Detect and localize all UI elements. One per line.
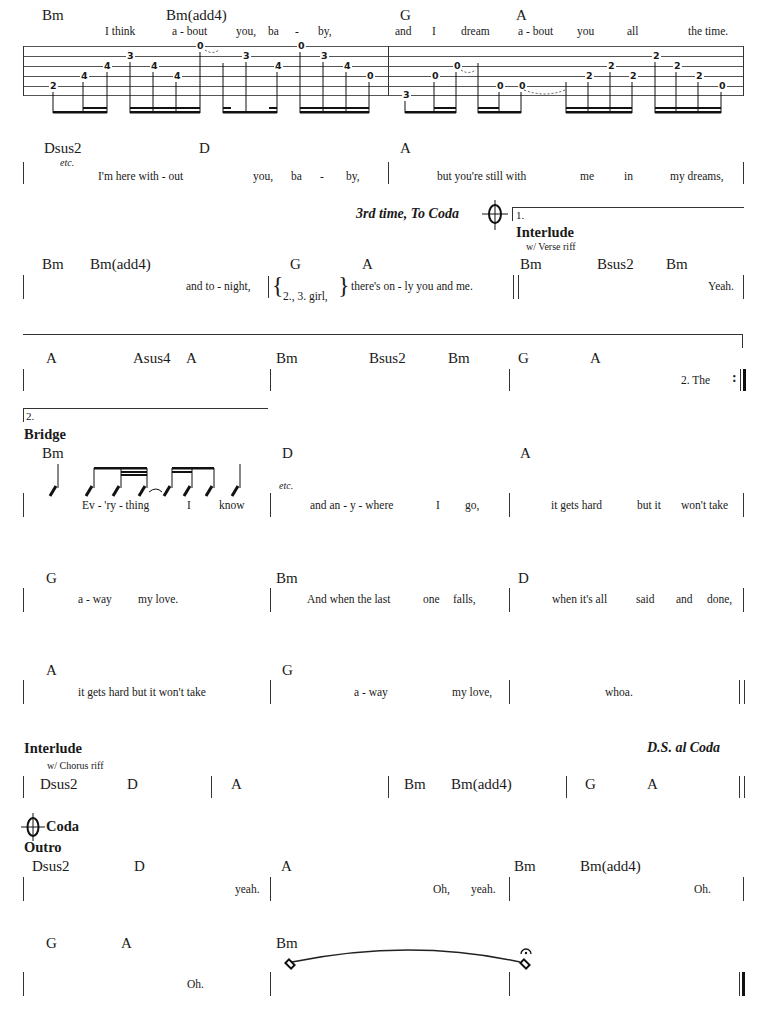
lyric: I bbox=[436, 499, 440, 511]
chord: Bsus2 bbox=[597, 256, 634, 273]
barline bbox=[268, 276, 269, 298]
barline bbox=[23, 369, 24, 391]
chord: A bbox=[121, 935, 132, 952]
barline bbox=[270, 972, 271, 996]
fermata-icon bbox=[519, 945, 533, 957]
lyric: one bbox=[423, 593, 440, 605]
barline bbox=[743, 493, 744, 517]
lyric: Oh. bbox=[694, 883, 711, 895]
double-barline bbox=[513, 275, 519, 299]
chord: D bbox=[127, 776, 138, 793]
chord: G bbox=[518, 350, 529, 367]
lyric: said bbox=[636, 593, 655, 605]
lyric: I bbox=[187, 499, 191, 511]
barline bbox=[23, 162, 24, 184]
chord: Dsus2 bbox=[40, 776, 78, 793]
chord: A bbox=[400, 140, 411, 157]
ending-1-label: 1. bbox=[516, 209, 524, 221]
barline bbox=[566, 776, 567, 798]
chord: A bbox=[46, 662, 57, 679]
chord: G bbox=[585, 776, 596, 793]
left-brace-icon: { bbox=[272, 270, 284, 300]
lyric: my love, bbox=[452, 686, 492, 698]
double-barline bbox=[739, 776, 745, 798]
lyric: won't take bbox=[681, 499, 728, 511]
lyric: but you're still with bbox=[437, 170, 526, 182]
lyric: a - way bbox=[354, 686, 388, 698]
section-label-outro: Outro bbox=[24, 839, 62, 856]
lyric: and bbox=[676, 593, 693, 605]
barline bbox=[509, 369, 510, 391]
chord: Asus4 bbox=[133, 350, 171, 367]
tab-rhythm-notation bbox=[0, 0, 758, 120]
chord: A bbox=[520, 445, 531, 462]
barline bbox=[743, 877, 744, 901]
repeat-end-barline bbox=[740, 369, 746, 391]
chord: Dsus2 bbox=[44, 140, 82, 157]
chord: A bbox=[46, 350, 57, 367]
ending-2-label: 2. bbox=[26, 410, 34, 422]
chord: A bbox=[647, 776, 658, 793]
chord: Dsus2 bbox=[32, 858, 70, 875]
chord: A bbox=[231, 776, 242, 793]
barline bbox=[743, 275, 744, 299]
barline bbox=[388, 162, 389, 184]
barline bbox=[270, 680, 271, 704]
lyric: falls, bbox=[453, 593, 476, 605]
barline bbox=[509, 493, 510, 517]
chord: Bm(add4) bbox=[90, 256, 151, 273]
section-label-bridge: Bridge bbox=[24, 426, 66, 443]
lyric: yeah. bbox=[235, 883, 260, 895]
barline bbox=[23, 877, 24, 901]
barline bbox=[23, 972, 24, 996]
barline bbox=[509, 877, 510, 901]
chord: A bbox=[590, 350, 601, 367]
lyric: Oh. bbox=[187, 978, 204, 990]
barline bbox=[270, 877, 271, 901]
lyric: I'm here with - out bbox=[98, 170, 183, 182]
lyric: - bbox=[320, 170, 324, 182]
lyric: Yeah. bbox=[708, 280, 734, 292]
barline bbox=[509, 972, 510, 996]
coda-icon bbox=[482, 200, 508, 230]
ending-1-bracket bbox=[512, 207, 513, 221]
lyric: there's on - ly you and me. bbox=[351, 280, 473, 292]
barline bbox=[23, 680, 24, 704]
tied-diamond-notes bbox=[270, 940, 540, 980]
etc-marking: etc. bbox=[60, 157, 74, 168]
to-coda-direction: 3rd time, To Coda bbox=[356, 206, 459, 222]
chord: G bbox=[46, 935, 57, 952]
chord: D bbox=[199, 140, 210, 157]
chord: A bbox=[281, 858, 292, 875]
chord: A bbox=[186, 350, 197, 367]
ending-2-bracket bbox=[23, 408, 268, 409]
lyric: ba bbox=[291, 170, 302, 182]
lyric: my dreams, bbox=[670, 170, 724, 182]
lyric: done, bbox=[707, 593, 732, 605]
barline bbox=[23, 776, 24, 798]
barline bbox=[270, 588, 271, 612]
chord: Bm bbox=[448, 350, 470, 367]
lyric: my love. bbox=[138, 593, 178, 605]
section-label-interlude: Interlude bbox=[24, 740, 82, 757]
chord: Bm bbox=[514, 858, 536, 875]
chord: D bbox=[518, 570, 529, 587]
riff-label: w/ Chorus riff bbox=[47, 760, 103, 771]
barline bbox=[509, 680, 510, 704]
lyric: when it's all bbox=[552, 593, 607, 605]
chord: Bm(add4) bbox=[451, 776, 512, 793]
chord: Bm bbox=[276, 570, 298, 587]
lyric: in bbox=[624, 170, 633, 182]
chord: G bbox=[46, 570, 57, 587]
rhythm-slash-notation bbox=[0, 460, 300, 500]
etc-marking: etc. bbox=[279, 480, 293, 491]
right-brace-icon: } bbox=[338, 270, 350, 300]
lyric: by, bbox=[346, 170, 360, 182]
chord: Bm bbox=[42, 256, 64, 273]
lyric: go, bbox=[465, 499, 479, 511]
chord: G bbox=[282, 662, 293, 679]
barline bbox=[388, 776, 389, 798]
lyric: 2. The bbox=[681, 374, 710, 386]
ds-al-coda-direction: D.S. al Coda bbox=[647, 740, 720, 756]
barline bbox=[270, 369, 271, 391]
